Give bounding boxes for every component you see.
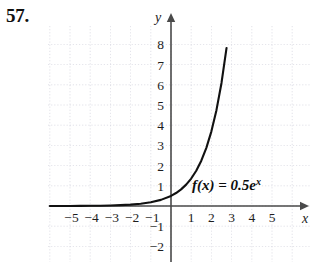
x-tick-label: 5 xyxy=(269,210,276,225)
function-label: f(x) = 0.5ex xyxy=(192,176,261,194)
x-tick-label: 1 xyxy=(188,210,195,225)
y-tick-label: −1 xyxy=(150,219,164,234)
x-tick-label: −5 xyxy=(64,210,79,225)
y-tick-label: 3 xyxy=(157,138,164,153)
y-tick-label: 7 xyxy=(157,58,164,73)
y-tick-label: −2 xyxy=(150,239,164,254)
function-expression-main: f(x) = 0.5e xyxy=(192,177,256,194)
x-axis-name: x xyxy=(301,211,309,226)
x-tick-label: −2 xyxy=(125,210,139,225)
y-tick-label: 1 xyxy=(157,179,164,194)
x-tick-label: −3 xyxy=(105,210,120,225)
x-tick-label: 3 xyxy=(228,210,235,225)
exponential-function-figure: −5−4−3−2−112345−2−112345678 yx f(x) = 0.… xyxy=(0,0,319,262)
function-expression: f(x) = 0.5ex xyxy=(192,176,261,194)
y-tick-label: 6 xyxy=(157,78,164,93)
x-tick-label: −4 xyxy=(85,210,100,225)
y-tick-label: 4 xyxy=(157,118,164,133)
graph-canvas: −5−4−3−2−112345−2−112345678 yx f(x) = 0.… xyxy=(0,0,319,262)
tick-labels: −5−4−3−2−112345−2−112345678 xyxy=(64,37,275,254)
grid-lines xyxy=(48,26,311,262)
function-expression-exponent: x xyxy=(255,176,261,187)
x-tick-label: 2 xyxy=(208,210,215,225)
y-axis-name: y xyxy=(153,10,162,25)
y-tick-label: 8 xyxy=(157,37,164,52)
x-tick-label: 4 xyxy=(248,210,255,225)
y-tick-label: 5 xyxy=(157,98,164,113)
y-tick-label: 2 xyxy=(157,159,164,174)
